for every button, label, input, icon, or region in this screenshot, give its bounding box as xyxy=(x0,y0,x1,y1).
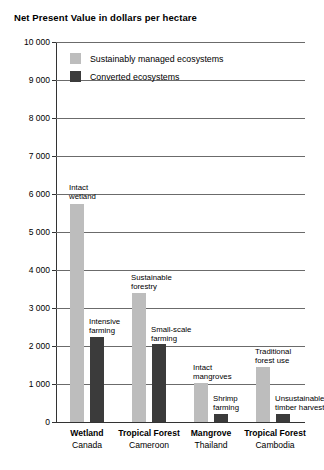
bar-tropical-forest-cameroon-sustainable xyxy=(132,293,146,422)
ytick-label-8000: 8 000 xyxy=(29,113,50,123)
bar-label-line2: farming xyxy=(151,334,177,343)
bar-label-line1: Sustainable xyxy=(131,273,172,282)
ytick-label-2000: 2 000 xyxy=(29,341,50,351)
bar-label-shrimp-farming: Shrimp farming xyxy=(213,394,239,412)
x-axis-category-mangrove: Mangrove Thailand xyxy=(180,428,242,451)
page-title: Net Present Value in dollars per hectare xyxy=(14,12,197,23)
gridline-4000: 4 000 xyxy=(56,270,305,271)
ytick-label-0: 0 xyxy=(45,417,50,427)
legend-swatch-converted-icon xyxy=(70,71,81,82)
bar-label-line1: Shrimp xyxy=(213,394,238,403)
bar-label-line2: farming xyxy=(213,403,239,412)
bar-label-line1: Traditional xyxy=(255,347,291,356)
gridline-0: 0 xyxy=(56,422,305,423)
ytick-mark-6000 xyxy=(52,194,56,195)
ytick-mark-1000 xyxy=(52,384,56,385)
bar-tropical-forest-cameroon-converted xyxy=(152,344,166,422)
bar-label-intact-mangroves: Intact mangroves xyxy=(193,363,232,381)
ytick-label-4000: 4 000 xyxy=(29,265,50,275)
x-axis-category-tropical-forest-cambodia: Tropical Forest Cambodia xyxy=(242,428,308,451)
legend-swatch-sustainable-icon xyxy=(70,53,81,64)
bar-mangrove-converted xyxy=(214,414,228,422)
category-name: Wetland xyxy=(56,428,118,440)
ytick-mark-10000 xyxy=(52,42,56,43)
x-axis-category-wetland: Wetland Canada xyxy=(56,428,118,451)
gridline-5000: 5 000 xyxy=(56,232,305,233)
bar-label-intensive-farming: Intensive farming xyxy=(89,317,120,335)
gridline-3000: 3 000 xyxy=(56,308,305,309)
bar-label-line2: forest use xyxy=(255,356,289,365)
ytick-label-7000: 7 000 xyxy=(29,151,50,161)
category-country: Thailand xyxy=(180,440,242,452)
bar-tropical-forest-cambodia-sustainable xyxy=(256,367,270,422)
bar-label-intact-wetland: Intact wetland xyxy=(69,183,96,201)
category-name: Tropical Forest xyxy=(242,428,308,440)
category-name: Tropical Forest xyxy=(118,428,180,440)
chart-container: Net Present Value in dollars per hectare… xyxy=(0,0,324,470)
bar-label-line2: mangroves xyxy=(193,372,232,381)
bar-label-line1: Intact xyxy=(193,363,212,372)
gridline-10000: 10 000 xyxy=(56,42,305,43)
bar-label-line2: farming xyxy=(89,326,115,335)
ytick-label-9000: 9 000 xyxy=(29,75,50,85)
ytick-mark-2000 xyxy=(52,346,56,347)
legend-item-converted: Converted ecosystems xyxy=(70,69,224,84)
bar-label-line1: Intact xyxy=(69,183,88,192)
category-name: Mangrove xyxy=(180,428,242,440)
plot-area: 10 000 9 000 8 000 7 000 6 000 5 000 4 0… xyxy=(56,42,305,422)
bar-label-line1: Small-scale xyxy=(151,325,191,334)
ytick-label-6000: 6 000 xyxy=(29,189,50,199)
bar-label-line1: Intensive xyxy=(89,317,120,326)
chart-legend: Sustainably managed ecosystems Converted… xyxy=(70,51,224,87)
ytick-mark-5000 xyxy=(52,232,56,233)
bar-label-unsustainable-timber-harvest: Unsustainable timber harvest xyxy=(275,394,324,412)
ytick-mark-3000 xyxy=(52,308,56,309)
ytick-mark-4000 xyxy=(52,270,56,271)
ytick-mark-0 xyxy=(52,422,56,423)
category-country: Canada xyxy=(56,440,118,452)
ytick-label-1000: 1 000 xyxy=(29,379,50,389)
legend-label-converted: Converted ecosystems xyxy=(90,72,179,82)
bar-label-small-scale-farming: Small-scale farming xyxy=(151,325,191,343)
bar-label-sustainable-forestry: Sustainable forestry xyxy=(131,273,172,291)
ytick-mark-7000 xyxy=(52,156,56,157)
bar-label-line2: timber harvest xyxy=(275,403,324,412)
gridline-8000: 8 000 xyxy=(56,118,305,119)
bar-label-line2: wetland xyxy=(69,192,96,201)
bar-mangrove-sustainable xyxy=(194,383,208,422)
bar-wetland-sustainable xyxy=(70,204,84,423)
bar-wetland-converted xyxy=(90,337,104,423)
bar-label-line2: forestry xyxy=(131,282,157,291)
gridline-7000: 7 000 xyxy=(56,156,305,157)
bar-label-traditional-forest-use: Traditional forest use xyxy=(255,347,291,365)
legend-label-sustainable: Sustainably managed ecosystems xyxy=(90,54,224,64)
legend-item-sustainable: Sustainably managed ecosystems xyxy=(70,51,224,66)
ytick-label-5000: 5 000 xyxy=(29,227,50,237)
x-axis-category-tropical-forest-cameroon: Tropical Forest Cameroon xyxy=(118,428,180,451)
ytick-label-10000: 10 000 xyxy=(24,37,50,47)
ytick-label-3000: 3 000 xyxy=(29,303,50,313)
category-country: Cambodia xyxy=(242,440,308,452)
bar-tropical-forest-cambodia-converted xyxy=(276,414,290,422)
ytick-mark-9000 xyxy=(52,80,56,81)
ytick-mark-8000 xyxy=(52,118,56,119)
bar-label-line1: Unsustainable xyxy=(275,394,324,403)
category-country: Cameroon xyxy=(118,440,180,452)
